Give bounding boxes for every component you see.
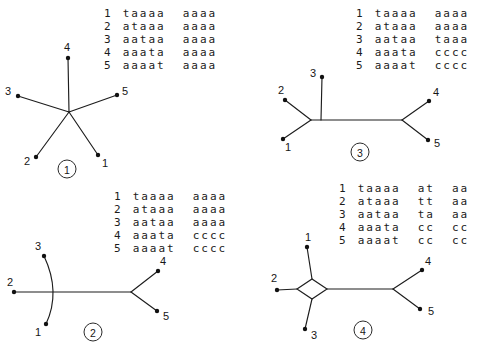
tree-1-leaf-dot-1	[96, 153, 100, 157]
tree-2-leaf-dot-3	[42, 254, 46, 258]
tree-2-leaf-label-1: 1	[35, 327, 41, 338]
taxon-label: 4	[339, 221, 348, 234]
alignment-row: 5 aaaat aaaa	[104, 59, 217, 72]
tree-1-leaf-dot-4	[66, 56, 70, 60]
tree-3-edge-4	[402, 101, 429, 120]
sequence-group: ataaa	[375, 20, 418, 33]
taxon-label: 5	[104, 59, 113, 72]
tree-1-edge-1	[69, 112, 98, 155]
sequence-group: tt	[418, 195, 435, 208]
alignment-panel-3: 1 taaaa aaaa 2 ataaa aaaa 3 aataa taaa 4…	[356, 7, 469, 72]
sequence-group: aaaa	[193, 190, 228, 203]
alignment-panel-1: 1 taaaa aaaa 2 ataaa aaaa 3 aataa aaaa 4…	[104, 7, 217, 72]
sequence-group: at	[418, 182, 435, 195]
taxon-label: 1	[339, 182, 348, 195]
sequence-group: taaaa	[375, 7, 418, 20]
sequence-group: aaaa	[183, 33, 218, 46]
sequence-group: aaaa	[193, 203, 228, 216]
sequence-group: cc	[418, 234, 435, 247]
tree-4-leaf-label-3: 3	[311, 330, 317, 341]
sequence-group: cccc	[435, 46, 470, 59]
tree-4-leaf-label-4: 4	[425, 256, 431, 267]
tree-1-edge-3	[18, 96, 69, 112]
sequence-group: aaaa	[183, 7, 218, 20]
tree-2-leaf-dot-1	[44, 322, 48, 326]
tree-4-leaf-dot-5	[418, 307, 422, 311]
sequence-group: taaaa	[123, 7, 166, 20]
tree-2-leaf-label-4: 4	[160, 256, 166, 267]
tree-4-leaf-dot-2	[275, 288, 279, 292]
taxon-label: 3	[356, 33, 365, 46]
alignment-row: 2 ataaa tt aa	[339, 195, 469, 208]
phylogeny-figure: 1 taaaa aaaa 2 ataaa aaaa 3 aataa aaaa 4…	[0, 0, 477, 348]
alignment-row: 4 aaata cc cc	[339, 221, 469, 234]
tree-3-edge-5	[402, 120, 428, 140]
taxon-label: 3	[114, 216, 123, 229]
tree-1-leaf-label-5: 5	[122, 86, 128, 97]
tree-2-leaf-label-2: 2	[7, 277, 13, 288]
alignment-row: 1 taaaa aaaa	[356, 7, 469, 20]
tree-1-edge-2	[36, 112, 69, 157]
sequence-group: ataaa	[133, 203, 176, 216]
tree-4-edge-5	[393, 289, 420, 309]
alignment-row: 4 aaata cccc	[114, 229, 227, 242]
alignment-row: 5 aaaat cc cc	[339, 234, 469, 247]
tree-3-edge-2	[285, 100, 311, 120]
sequence-group: ataaa	[358, 195, 401, 208]
taxon-label: 4	[356, 46, 365, 59]
tree-3-graphic	[281, 75, 431, 142]
tree-4-diamond-icon	[297, 279, 327, 299]
tree-3-leaf-label-5: 5	[434, 138, 440, 149]
taxon-label: 2	[339, 195, 348, 208]
sequence-group: aaata	[133, 229, 176, 242]
tree-3-leaf-label-4: 4	[433, 87, 439, 98]
taxon-label: 2	[114, 203, 123, 216]
sequence-group: cccc	[193, 242, 228, 255]
tree-4-leaf-dot-3	[303, 327, 307, 331]
tree-4-edge-1	[307, 247, 312, 279]
sequence-group: taaaa	[133, 190, 176, 203]
taxon-label: 1	[356, 7, 365, 20]
tree-2-edge-3-1	[44, 256, 53, 324]
tree-1-edge-5	[69, 95, 117, 112]
sequence-group: aaaa	[183, 46, 218, 59]
tree-2-graphic	[12, 254, 160, 326]
sequence-group: aaaa	[193, 216, 228, 229]
tree-1-leaf-dot-5	[115, 93, 119, 97]
tree-1-leaf-label-3: 3	[5, 86, 11, 97]
alignment-row: 1 taaaa aaaa	[114, 190, 227, 203]
alignment-row: 3 aataa aaaa	[104, 33, 217, 46]
alignment-panel-2: 1 taaaa aaaa 2 ataaa aaaa 3 aataa aaaa 4…	[114, 190, 227, 255]
alignment-row: 5 aaaat cccc	[356, 59, 469, 72]
sequence-group: taaa	[435, 33, 470, 46]
tree-3-edge-1	[283, 120, 311, 139]
sequence-group: ataaa	[123, 20, 166, 33]
sequence-group: aaata	[123, 46, 166, 59]
tree-3-leaf-label-2: 2	[278, 85, 284, 96]
sequence-group: aaaa	[435, 20, 470, 33]
tree-4-edge-2	[277, 289, 297, 290]
sequence-group: cccc	[193, 229, 228, 242]
sequence-group: aataa	[133, 216, 176, 229]
tree-3-leaf-dot-4	[427, 99, 431, 103]
sequence-group: ta	[418, 208, 435, 221]
tree-4-leaf-dot-1	[305, 245, 309, 249]
alignment-row: 3 aataa aaaa	[114, 216, 227, 229]
alignment-row: 2 ataaa aaaa	[104, 20, 217, 33]
tree-3-leaf-label-1: 1	[285, 142, 291, 153]
taxon-label: 5	[114, 242, 123, 255]
sequence-group: aataa	[375, 33, 418, 46]
alignment-row: 3 aataa ta aa	[339, 208, 469, 221]
tree-3-leaf-dot-2	[283, 98, 287, 102]
tree-1-leaf-dot-2	[34, 155, 38, 159]
tree-1-leaf-label-2: 2	[24, 156, 30, 167]
taxon-label: 2	[104, 20, 113, 33]
alignment-row: 2 ataaa aaaa	[114, 203, 227, 216]
sequence-group: aataa	[358, 208, 401, 221]
panel-number-badge-1: 1	[58, 160, 77, 179]
tree-3-leaf-dot-3	[320, 75, 324, 79]
tree-1-leaf-dot-3	[16, 94, 20, 98]
tree-4-edge-4	[393, 270, 422, 289]
tree-2-leaf-label-3: 3	[35, 241, 41, 252]
sequence-group: aaaat	[375, 59, 418, 72]
